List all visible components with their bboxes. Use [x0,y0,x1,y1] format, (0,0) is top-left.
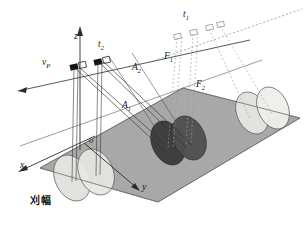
axis-z-label: z [74,31,78,41]
velocity-arrowhead [18,87,27,93]
platform-marker-t2-light-b [102,56,110,63]
swath-width-annotation: 刈幅 [30,192,51,207]
far-point-F1-label: F1 [164,52,173,63]
time-t2-label: t2 [98,40,104,51]
platform-velocity-label: vP [42,58,50,69]
origin-label: o [89,136,93,145]
range-A1-label: A1 [122,101,131,112]
far-point-F2-label: F2 [196,80,205,91]
axis-y-label: y [142,182,146,192]
platform-markers-t1 [174,21,225,39]
platform-marker-t1-b [190,29,198,35]
platform-markers-t2 [69,56,110,71]
platform-marker-t1-a [174,33,182,39]
time-t1-label: t1 [183,10,189,21]
sar-geometry-figure: z x y o vP t2 t1 A1 A2 F1 F2 刈幅 [0,0,305,226]
range-A2-label: A2 [132,63,141,74]
axis-x-label: x [20,160,24,170]
